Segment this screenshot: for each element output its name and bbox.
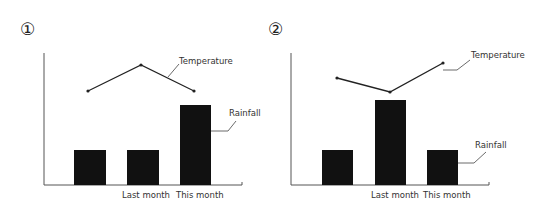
temperature-callout-line [443, 60, 470, 70]
rainfall-bar-3 [180, 105, 211, 185]
temperature-point [441, 61, 444, 64]
rainfall-callout-line [211, 121, 236, 131]
rainfall-label: Rainfall [475, 140, 507, 150]
rainfall-bar-3 [427, 150, 458, 185]
temperature-point [335, 76, 338, 79]
chart-panel-2: ② Temperature Rainfall Last month This m… [268, 19, 525, 200]
x-label-last-month: Last month [122, 190, 170, 200]
rainfall-callout-line [458, 152, 486, 163]
temperature-label: Temperature [470, 50, 525, 60]
temperature-point [192, 89, 195, 92]
rainfall-bar-2 [375, 100, 406, 185]
x-label-this-month: This month [175, 190, 224, 200]
rainfall-bar-1 [322, 150, 353, 185]
temperature-point [139, 63, 142, 66]
panel-number-2: ② [268, 19, 283, 39]
temperature-line [337, 63, 443, 92]
charts-canvas: ① Temperature Rainfall Last month This m… [0, 0, 540, 221]
x-label-last-month: Last month [371, 190, 419, 200]
temperature-line [88, 65, 194, 91]
chart-panel-1: ① Temperature Rainfall Last month This m… [20, 19, 261, 200]
temperature-callout-line [168, 64, 179, 77]
rainfall-label: Rainfall [229, 108, 261, 118]
x-label-this-month: This month [422, 190, 471, 200]
rainfall-bar-2 [127, 150, 159, 185]
temperature-point [86, 89, 89, 92]
panel-number-1: ① [20, 19, 35, 39]
rainfall-bar-1 [74, 150, 106, 185]
temperature-label: Temperature [178, 56, 233, 66]
temperature-point [388, 90, 391, 93]
